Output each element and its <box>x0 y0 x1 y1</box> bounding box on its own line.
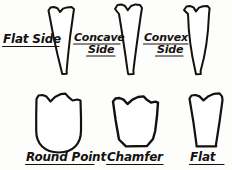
label-concave-side-line2: Side <box>88 43 115 56</box>
blade-profile-diagram: Flat Side Concave Side Convex Side Round… <box>0 0 232 170</box>
label-round-point: Round Point <box>26 150 108 165</box>
label-flat-side-text: Flat Side <box>3 32 61 46</box>
shape-chamfer <box>113 96 158 146</box>
label-flat-text: Flat <box>190 150 217 164</box>
figure-canvas: Flat Side Concave Side Convex Side Round… <box>0 0 232 170</box>
label-chamfer-text: Chamfer <box>107 150 164 164</box>
label-round-point-text: Round Point <box>26 150 107 164</box>
label-flat-side: Flat Side <box>3 32 62 47</box>
label-chamfer: Chamfer <box>107 150 165 165</box>
shape-round-point <box>36 94 81 153</box>
label-convex-side-line2: Side <box>157 43 184 56</box>
